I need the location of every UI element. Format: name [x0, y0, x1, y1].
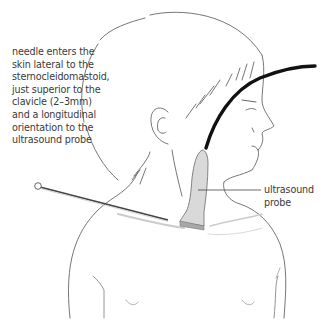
needle-annotation-line: clavicle (2–3mm): [12, 96, 110, 109]
medical-illustration: needle enters the skin lateral to the st…: [0, 0, 324, 329]
needle-annotation-line: just superior to the: [12, 84, 110, 97]
needle-annotation: needle enters the skin lateral to the st…: [12, 46, 110, 147]
needle: [35, 183, 168, 222]
needle-annotation-line: orientation to the: [12, 122, 110, 135]
needle-annotation-line: and a longitudinal: [12, 109, 110, 122]
needle-annotation-line: ultrasound probe: [12, 134, 110, 147]
probe-annotation-line: probe: [264, 197, 314, 210]
probe-annotation-line: ultrasound: [264, 184, 314, 197]
probe-cable: [206, 66, 315, 148]
needle-annotation-line: needle enters the: [12, 46, 110, 59]
probe-annotation: ultrasound probe: [264, 184, 314, 209]
needle-annotation-line: sternocleidomastoid,: [12, 71, 110, 84]
needle-annotation-line: skin lateral to the: [12, 59, 110, 72]
